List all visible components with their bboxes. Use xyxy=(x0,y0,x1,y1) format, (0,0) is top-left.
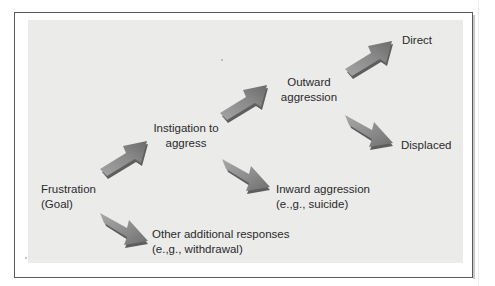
node-outward-aggression: Outward aggression xyxy=(279,75,339,105)
node-other-responses: Other additional responses (e.,g., withd… xyxy=(152,227,289,257)
node-other-responses-line-2: (e.,g., withdrawal) xyxy=(152,242,289,257)
arrow-down-right-icon xyxy=(98,206,154,250)
node-direct: Direct xyxy=(402,33,432,48)
arrow-up-right-icon xyxy=(98,136,154,180)
node-frustration-line-1: Frustration xyxy=(41,182,96,197)
node-displaced: Displaced xyxy=(401,138,452,153)
node-instigation-line-2: aggress xyxy=(150,136,222,151)
arrow-down-right-icon xyxy=(220,152,276,196)
node-frustration: Frustration (Goal) xyxy=(41,182,96,212)
print-speck xyxy=(25,257,27,259)
node-outward-line-2: aggression xyxy=(279,90,339,105)
node-outward-line-1: Outward xyxy=(279,75,339,90)
node-other-responses-line-1: Other additional responses xyxy=(152,227,289,242)
node-direct-line-1: Direct xyxy=(402,33,432,48)
node-instigation: Instigation to aggress xyxy=(150,121,222,151)
print-speck xyxy=(221,59,223,61)
node-displaced-line-1: Displaced xyxy=(401,138,452,153)
node-inward-aggression: Inward aggression (e.,g., suicide) xyxy=(276,182,370,212)
node-instigation-line-1: Instigation to xyxy=(150,121,222,136)
arrow-up-right-icon xyxy=(218,80,274,124)
page-edge xyxy=(478,0,479,286)
node-frustration-line-2: (Goal) xyxy=(41,197,96,212)
arrow-up-right-icon xyxy=(343,36,399,80)
arrow-down-right-icon xyxy=(343,108,399,152)
node-inward-line-1: Inward aggression xyxy=(276,182,370,197)
node-inward-line-2: (e.,g., suicide) xyxy=(276,197,370,212)
